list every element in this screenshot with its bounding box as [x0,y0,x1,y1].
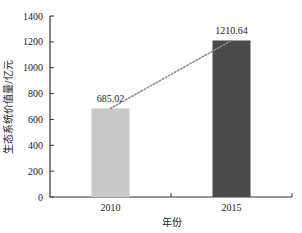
bar-2015 [213,40,251,197]
bars: 685.021210.64 [92,25,251,197]
y-axis: 0200400600800100012001400 [23,11,54,203]
x-tick-label: 2015 [222,202,242,213]
bar-2010 [92,108,130,197]
bar-chart: 0200400600800100012001400 20102015 685.0… [0,0,302,233]
y-axis-title: 生态系统价值量/亿元 [2,60,14,153]
y-tick-label: 200 [28,166,43,177]
y-tick-label: 800 [28,88,43,99]
y-tick-label: 1200 [23,36,43,47]
y-tick-label: 1400 [23,11,43,22]
x-axis-title: 年份 [162,216,182,228]
y-tick-label: 1000 [23,62,43,73]
value-label: 1210.64 [215,25,248,36]
y-tick-label: 600 [28,114,43,125]
x-tick-label: 2010 [101,202,121,213]
y-tick-label: 400 [28,140,43,151]
y-tick-label: 0 [38,192,43,203]
x-axis: 20102015 [50,193,292,213]
